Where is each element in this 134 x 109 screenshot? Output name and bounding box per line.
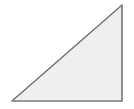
shape-svg bbox=[0, 0, 134, 109]
shape-canvas bbox=[0, 0, 134, 109]
